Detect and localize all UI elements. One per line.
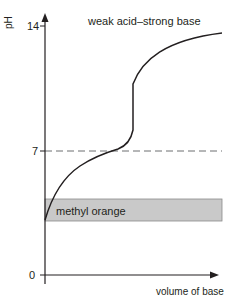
titration-chart: methyl orange 14 7 0 pH weak acid–strong… — [0, 0, 242, 304]
tick-label-7: 7 — [32, 145, 38, 157]
tick-label-14: 14 — [27, 20, 39, 32]
tick-label-0: 0 — [29, 269, 35, 281]
titration-curve — [45, 33, 222, 220]
y-axis-arrow-icon — [42, 13, 49, 22]
x-axis-label: volume of base — [156, 286, 224, 297]
chart-title: weak acid–strong base — [87, 15, 201, 27]
y-axis-label: pH — [3, 16, 14, 29]
band-label: methyl orange — [56, 205, 126, 217]
x-axis-arrow-icon — [210, 272, 219, 279]
